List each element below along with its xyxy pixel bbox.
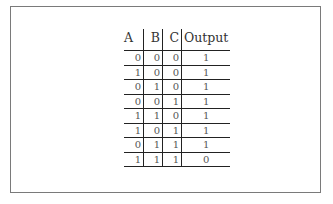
cell-a: 1	[124, 109, 144, 124]
cell-b: 1	[144, 152, 163, 167]
cell-b: 1	[144, 138, 163, 153]
cell-c: 1	[163, 123, 182, 138]
table-row: 1 1 0 1	[124, 109, 230, 124]
header-row: A B C Output	[124, 29, 230, 51]
cell-c: 1	[163, 94, 182, 109]
cell-output: 1	[182, 80, 231, 95]
cell-a: 1	[124, 123, 144, 138]
table-row: 1 0 1 1	[124, 123, 230, 138]
cell-a: 0	[124, 138, 144, 153]
cell-output: 1	[182, 109, 231, 124]
cell-output: 1	[182, 65, 231, 80]
header-a: A	[124, 29, 144, 51]
cell-b: 0	[144, 51, 163, 66]
cell-c: 1	[163, 152, 182, 167]
truth-table: A B C Output 0 0 0 1 1 0 0 1 0 1 0 1 0 0…	[124, 29, 230, 167]
cell-b: 0	[144, 94, 163, 109]
cell-c: 0	[163, 109, 182, 124]
cell-a: 1	[124, 152, 144, 167]
cell-a: 1	[124, 65, 144, 80]
cell-c: 0	[163, 65, 182, 80]
table-row: 1 1 1 0	[124, 152, 230, 167]
header-b: B	[144, 29, 163, 51]
cell-output: 0	[182, 152, 231, 167]
table-row: 1 0 0 1	[124, 65, 230, 80]
cell-b: 0	[144, 123, 163, 138]
cell-output: 1	[182, 138, 231, 153]
table-row: 0 0 1 1	[124, 94, 230, 109]
cell-b: 1	[144, 109, 163, 124]
cell-output: 1	[182, 94, 231, 109]
table-row: 0 1 1 1	[124, 138, 230, 153]
cell-a: 0	[124, 94, 144, 109]
cell-output: 1	[182, 51, 231, 66]
header-output: Output	[182, 29, 231, 51]
cell-c: 0	[163, 51, 182, 66]
table-row: 0 0 0 1	[124, 51, 230, 66]
cell-c: 0	[163, 80, 182, 95]
cell-b: 1	[144, 80, 163, 95]
cell-c: 1	[163, 138, 182, 153]
cell-output: 1	[182, 123, 231, 138]
header-c: C	[163, 29, 182, 51]
cell-b: 0	[144, 65, 163, 80]
cell-a: 0	[124, 51, 144, 66]
cell-a: 0	[124, 80, 144, 95]
table-row: 0 1 0 1	[124, 80, 230, 95]
